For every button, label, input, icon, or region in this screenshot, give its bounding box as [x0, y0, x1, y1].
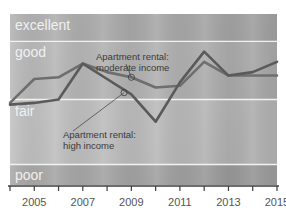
- x-axis-tick-label-2015: 2015: [265, 196, 286, 208]
- annotation-text-line1: Apartment rental:: [96, 51, 169, 62]
- band-label-poor: poor: [15, 167, 43, 183]
- annotation-text-line2: moderate income: [96, 62, 169, 73]
- x-axis: 200520072009201120132015: [8, 186, 286, 208]
- chart-container: excellentgoodfairpoor Apartment rental:m…: [0, 0, 286, 220]
- x-axis-tick-label-2011: 2011: [168, 196, 192, 208]
- annotation-text-line2: high income: [63, 140, 114, 151]
- affordability-line-chart: excellentgoodfairpoor Apartment rental:m…: [0, 0, 286, 220]
- x-axis-tick-label-2009: 2009: [119, 196, 143, 208]
- x-axis-tick-label-2007: 2007: [71, 196, 95, 208]
- x-axis-tick-label-2013: 2013: [216, 196, 240, 208]
- band-label-excellent: excellent: [15, 17, 70, 33]
- x-axis-tick-label-2005: 2005: [22, 196, 46, 208]
- band-label-good: good: [15, 44, 46, 60]
